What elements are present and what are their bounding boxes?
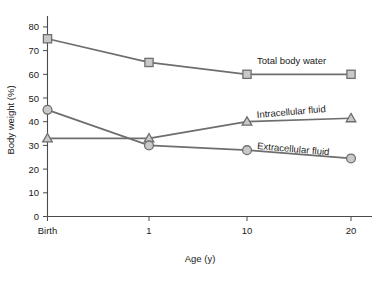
data-point-marker-circle	[145, 141, 154, 150]
x-tick-label-1: 1	[146, 225, 151, 236]
y-tick-label-80: 80	[28, 21, 39, 32]
line-chart-svg: 0 10 20 30 40 50 60 70 80 Birth 1 10 20 …	[0, 0, 375, 286]
y-tick-label-0: 0	[34, 211, 39, 222]
series-label-extracellular-fluid: Extracellular fluid	[257, 140, 330, 157]
series-label-intracellular-fluid: Intracellular fluid	[256, 103, 326, 120]
y-tick-label-10: 10	[28, 187, 39, 198]
series-intracellular-fluid	[43, 113, 356, 141]
x-axis-ticks	[48, 217, 352, 222]
data-point-marker-square	[347, 70, 355, 78]
data-point-marker-circle	[43, 105, 52, 114]
y-tick-label-60: 60	[28, 69, 39, 80]
series-line-intracellular-fluid	[48, 118, 352, 138]
y-axis-title: Body weight (%)	[5, 85, 16, 154]
y-tick-label-30: 30	[28, 140, 39, 151]
data-point-marker-circle	[243, 146, 252, 155]
x-axis-title: Age (y)	[185, 253, 216, 264]
series-label-total-body-water: Total body water	[257, 55, 326, 66]
chart-figure: 0 10 20 30 40 50 60 70 80 Birth 1 10 20 …	[0, 0, 375, 286]
data-point-marker-circle	[347, 154, 356, 163]
y-tick-label-20: 20	[28, 164, 39, 175]
data-point-marker-square	[243, 70, 251, 78]
data-point-marker-square	[43, 35, 51, 43]
y-tick-label-70: 70	[28, 45, 39, 56]
y-axis-ticks	[43, 27, 48, 217]
x-tick-label-10: 10	[242, 225, 253, 236]
y-tick-label-50: 50	[28, 93, 39, 104]
x-tick-label-20: 20	[346, 225, 357, 236]
x-tick-label-birth: Birth	[38, 225, 58, 236]
data-point-marker-square	[145, 58, 153, 66]
y-tick-label-40: 40	[28, 116, 39, 127]
